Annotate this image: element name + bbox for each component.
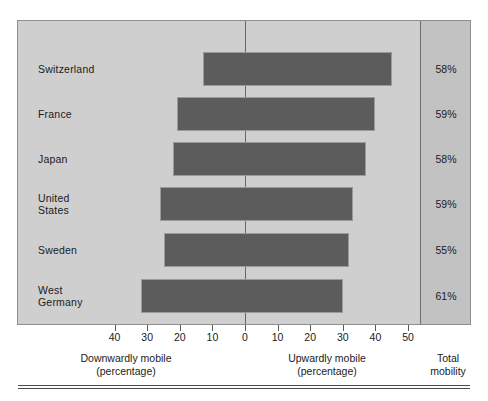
total-mobility-value-sweden: 55% [421, 244, 471, 256]
axis-caption-upward-line1: Upwardly mobile [262, 352, 392, 365]
axis-caption-total-line2: mobility [422, 365, 474, 378]
category-label-japan: Japan [38, 153, 158, 165]
category-label-line2: Germany [38, 296, 158, 308]
bar-france [177, 97, 376, 131]
category-label-united-states: UnitedStates [38, 192, 158, 216]
bar-united-states [160, 187, 352, 221]
total-mobility-value-japan: 58% [421, 153, 471, 165]
axis-caption-upward-line2: (percentage) [262, 365, 392, 378]
axis-caption-downward-line1: Downwardly mobile [56, 352, 196, 365]
axis-tick-label: 0 [230, 331, 260, 343]
axis-tick-label: 30 [132, 331, 162, 343]
category-label-line1: Sweden [38, 244, 158, 256]
axis-caption-total-line1: Total [422, 352, 474, 365]
axis-caption-downward: Downwardly mobile (percentage) [56, 352, 196, 378]
axis-tick-label: 10 [263, 331, 293, 343]
total-mobility-value-united-states: 59% [421, 198, 471, 210]
axis-tick-label: 50 [393, 331, 423, 343]
category-label-line1: Switzerland [38, 63, 158, 75]
category-label-line1: West [38, 284, 158, 296]
x-axis: 4030201001020304050 [17, 325, 471, 347]
chart-figure: SwitzerlandFranceJapanUnitedStatesSweden… [0, 0, 488, 401]
total-mobility-panel: 58%59%58%59%55%61% [420, 21, 470, 324]
total-mobility-value-switzerland: 58% [421, 63, 471, 75]
plot-panel: SwitzerlandFranceJapanUnitedStatesSweden… [17, 20, 471, 325]
bar-japan [173, 142, 365, 176]
axis-caption-downward-line2: (percentage) [56, 365, 196, 378]
axis-tick-label: 20 [165, 331, 195, 343]
bottom-double-rule [18, 385, 470, 389]
category-label-line1: France [38, 108, 158, 120]
category-label-line1: Japan [38, 153, 158, 165]
bar-sweden [164, 233, 350, 267]
axis-tick-label: 40 [100, 331, 130, 343]
axis-caption-upward: Upwardly mobile (percentage) [262, 352, 392, 378]
axis-tick-label: 20 [295, 331, 325, 343]
axis-caption-total-mobility: Total mobility [422, 352, 474, 378]
category-label-west-germany: WestGermany [38, 284, 158, 308]
category-label-france: France [38, 108, 158, 120]
axis-tick-label: 40 [360, 331, 390, 343]
total-mobility-value-france: 59% [421, 108, 471, 120]
total-mobility-value-west-germany: 61% [421, 290, 471, 302]
category-label-switzerland: Switzerland [38, 63, 158, 75]
bar-switzerland [203, 52, 392, 86]
axis-tick-label: 30 [328, 331, 358, 343]
category-label-sweden: Sweden [38, 244, 158, 256]
category-label-line2: States [38, 204, 158, 216]
bar-west-germany [141, 279, 343, 313]
category-label-line1: United [38, 192, 158, 204]
axis-tick-label: 10 [197, 331, 227, 343]
